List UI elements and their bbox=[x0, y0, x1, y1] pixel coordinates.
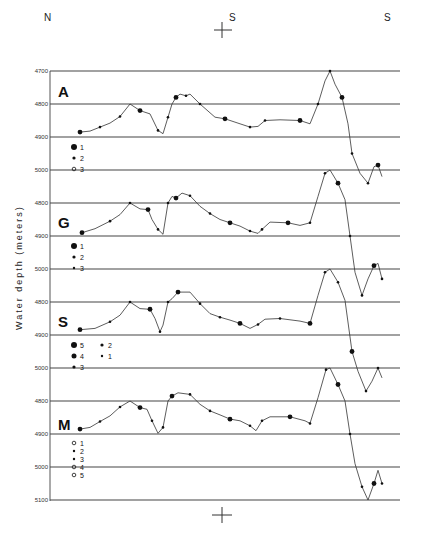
svg-text:4900: 4900 bbox=[35, 233, 49, 239]
panel-label: A bbox=[58, 83, 69, 100]
svg-text:5100: 5100 bbox=[35, 497, 49, 503]
panel-label: S bbox=[58, 313, 68, 330]
svg-text:3: 3 bbox=[80, 265, 84, 272]
svg-text:5: 5 bbox=[80, 342, 84, 349]
svg-text:4700: 4700 bbox=[35, 68, 49, 74]
svg-text:5: 5 bbox=[80, 472, 84, 479]
svg-text:5000: 5000 bbox=[35, 365, 49, 371]
svg-text:4800: 4800 bbox=[35, 299, 49, 305]
svg-text:3: 3 bbox=[80, 456, 84, 463]
svg-text:5000: 5000 bbox=[35, 464, 49, 470]
bathymetry-profile-chart: 4700480049005000A123480049005000G1234800… bbox=[0, 0, 421, 540]
svg-text:4: 4 bbox=[80, 464, 84, 471]
svg-text:3: 3 bbox=[80, 364, 84, 371]
svg-text:2: 2 bbox=[108, 342, 112, 349]
svg-text:4800: 4800 bbox=[35, 101, 49, 107]
panel-label: G bbox=[58, 214, 70, 231]
svg-text:1: 1 bbox=[80, 440, 84, 447]
panel-label: M bbox=[58, 416, 71, 433]
svg-text:4800: 4800 bbox=[35, 200, 49, 206]
svg-text:4900: 4900 bbox=[35, 332, 49, 338]
svg-text:4: 4 bbox=[80, 353, 84, 360]
svg-text:3: 3 bbox=[80, 166, 84, 173]
svg-text:5000: 5000 bbox=[35, 167, 49, 173]
svg-text:2: 2 bbox=[80, 254, 84, 261]
svg-text:1: 1 bbox=[80, 243, 84, 250]
svg-text:4900: 4900 bbox=[35, 431, 49, 437]
svg-text:5000: 5000 bbox=[35, 266, 49, 272]
svg-text:4900: 4900 bbox=[35, 134, 49, 140]
svg-text:4800: 4800 bbox=[35, 398, 49, 404]
svg-text:1: 1 bbox=[108, 353, 112, 360]
svg-text:2: 2 bbox=[80, 448, 84, 455]
svg-text:2: 2 bbox=[80, 155, 84, 162]
svg-text:1: 1 bbox=[80, 144, 84, 151]
